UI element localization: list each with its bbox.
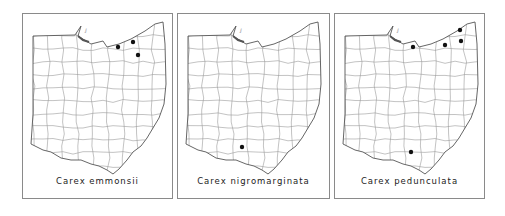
record-dot	[131, 40, 135, 44]
ohio-county-map: ⅉ	[23, 14, 174, 200]
record-dot	[411, 45, 415, 49]
ohio-county-map: ⅉ	[178, 14, 331, 200]
state-outline	[31, 22, 166, 174]
county-lines	[178, 14, 328, 182]
svg-text:ⅉ: ⅉ	[239, 27, 242, 34]
record-dot	[459, 39, 463, 43]
record-dot	[443, 43, 447, 47]
ohio-county-map: ⅉ	[335, 14, 486, 200]
svg-text:ⅉ: ⅉ	[84, 27, 87, 34]
state-outline	[186, 22, 321, 174]
map-panel-carex-emmonsii: ⅉ Carex emmonsii	[22, 13, 173, 199]
map-panel-carex-nigromarginata: ⅉ Carex nigromarginata	[177, 13, 330, 199]
record-dot	[458, 28, 462, 32]
record-dot	[409, 150, 413, 154]
svg-text:ⅉ: ⅉ	[396, 27, 399, 34]
record-dot	[240, 145, 244, 149]
county-lines	[23, 14, 173, 182]
record-dot	[116, 45, 120, 49]
county-lines	[335, 14, 485, 182]
species-caption: Carex nigromarginata	[178, 176, 329, 186]
map-panel-carex-pedunculata: ⅉ Carex pedunculata	[334, 13, 485, 199]
species-caption: Carex emmonsii	[23, 176, 172, 186]
record-dot	[136, 53, 140, 57]
species-caption: Carex pedunculata	[335, 176, 484, 186]
